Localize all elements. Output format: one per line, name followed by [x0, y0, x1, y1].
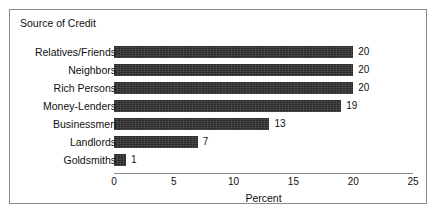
bar: [114, 118, 269, 130]
bar-value-label: 20: [358, 82, 369, 94]
x-tick-label: 15: [278, 176, 308, 188]
x-tick-label: 5: [159, 176, 189, 188]
x-axis-line: [114, 173, 413, 174]
bar: [114, 46, 353, 58]
bar: [114, 136, 198, 148]
category-label: Relatives/Friends: [0, 46, 116, 58]
category-label: Money-Lenders: [0, 100, 116, 112]
bar-value-label: 20: [358, 46, 369, 58]
category-label: Landlords: [0, 136, 116, 148]
bar: [114, 100, 341, 112]
x-tick-label: 10: [219, 176, 249, 188]
plot-area: 202020191371 Relatives/FriendsNeighborsR…: [10, 10, 428, 205]
bar-value-label: 13: [274, 118, 285, 130]
category-label: Goldsmiths: [0, 154, 116, 166]
bar-value-label: 7: [203, 136, 209, 148]
x-axis-title: Percent: [114, 192, 413, 204]
category-label: Neighbors: [0, 64, 116, 76]
bar-value-label: 1: [131, 154, 137, 166]
chart-frame: Source of Credit 202020191371 Relatives/…: [9, 9, 427, 204]
category-label: Rich Persons: [0, 82, 116, 94]
bar: [114, 64, 353, 76]
x-tick-label: 0: [99, 176, 129, 188]
category-label: Businessmen: [0, 118, 116, 130]
x-tick-label: 20: [338, 176, 368, 188]
bar-value-label: 20: [358, 64, 369, 76]
bar-value-label: 19: [346, 100, 357, 112]
bar: [114, 82, 353, 94]
x-tick-label: 25: [398, 176, 428, 188]
